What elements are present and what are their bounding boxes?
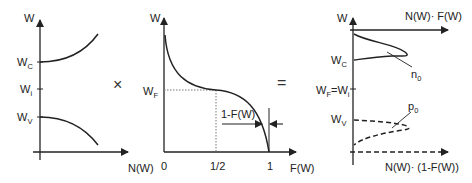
y-axis-label: W	[150, 12, 161, 24]
tick-wi: Wi	[20, 83, 32, 98]
bottom-axis-label: N(W)· (1-F(W))	[385, 161, 459, 173]
fermi-dirac-curve	[165, 35, 269, 152]
x-axis-label: F(W)	[290, 162, 314, 174]
x-tick-half: 1/2	[210, 160, 225, 172]
multiply-operator: ×	[113, 76, 122, 93]
panel-carrier-distribution: W N(W)· F(W) N(W)· (1-F(W)) WC WF=Wi WV …	[316, 10, 462, 173]
p0-leader	[392, 112, 411, 128]
top-axis-label: N(W)· F(W)	[405, 10, 462, 22]
n0-leader	[387, 52, 412, 67]
y-axis-label: W	[337, 12, 348, 24]
x-tick-1: 1	[267, 160, 273, 172]
tick-wv: WV	[331, 113, 346, 128]
x-tick-0: 0	[161, 160, 167, 172]
tick-wv: WV	[17, 111, 32, 126]
conduction-band-curve	[40, 34, 98, 62]
tick-wf-wi: WF=Wi	[316, 84, 350, 99]
one-minus-f-label: 1-F(W)	[221, 108, 255, 120]
y-axis-label: W	[24, 12, 35, 24]
tick-wc: WC	[331, 54, 347, 69]
tick-wf: WF	[143, 85, 158, 100]
valence-band-curve	[40, 117, 98, 145]
tick-wc: WC	[17, 56, 33, 71]
x-axis-label: N(W)	[128, 162, 154, 174]
n0-label: n0	[411, 68, 421, 83]
hole-distribution-curve	[354, 120, 409, 145]
electron-distribution-curve	[354, 34, 407, 60]
equals-operator: =	[277, 74, 286, 91]
panel-density-of-states: W N(W) WC Wi WV	[17, 12, 154, 174]
semiconductor-carrier-diagram: W N(W) WC Wi WV × W F(W) WF 0 1/2 1 1-F(…	[0, 0, 472, 183]
panel-fermi-function: W F(W) WF 0 1/2 1 1-F(W)	[143, 12, 314, 174]
